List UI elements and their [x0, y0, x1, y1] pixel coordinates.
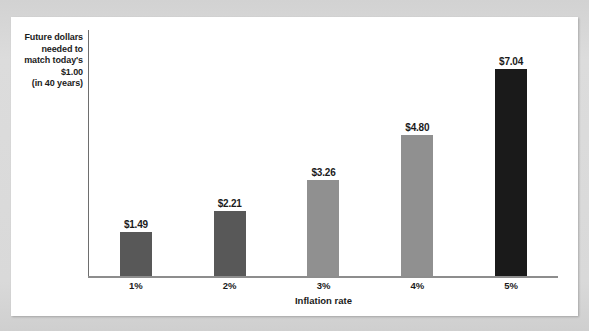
y-axis-label-line-4: $1.00: [19, 67, 83, 79]
bar-1[interactable]: [120, 232, 152, 276]
x-tick-label-2: 2%: [183, 280, 277, 291]
x-axis-tick-labels: 1% 2% 3% 4% 5%: [89, 280, 558, 294]
bar-value-label-1: $1.49: [124, 219, 148, 230]
bar-4[interactable]: [401, 135, 433, 276]
bar-value-label-3: $3.26: [311, 167, 335, 178]
x-tick-label-1: 1%: [89, 280, 183, 291]
y-axis-label-line-3: match today's: [19, 55, 83, 67]
x-tick-label-5: 5%: [464, 280, 558, 291]
bar-chart: Future dollars needed to match today's $…: [11, 17, 578, 316]
bar-value-label-2: $2.21: [218, 198, 242, 209]
y-axis-label: Future dollars needed to match today's $…: [19, 32, 83, 90]
y-axis-label-line-2: needed to: [19, 44, 83, 56]
bar-slot-1: $1.49: [89, 30, 183, 276]
x-tick-label-3: 3%: [277, 280, 371, 291]
y-axis-label-line-1: Future dollars: [19, 32, 83, 44]
bar-slot-2: $2.21: [183, 30, 277, 276]
x-axis-line: [88, 276, 558, 278]
y-axis-label-line-5: (in 40 years): [19, 78, 83, 90]
plot-region: $1.49 $2.21 $3.26 $4.80 $7.04: [89, 30, 558, 276]
bar-slot-5: $7.04: [464, 30, 558, 276]
bar-2[interactable]: [214, 211, 246, 276]
bar-value-label-4: $4.80: [405, 122, 429, 133]
figure-card: Future dollars needed to match today's $…: [11, 17, 578, 316]
bar-slot-3: $3.26: [277, 30, 371, 276]
bar-3[interactable]: [307, 180, 339, 276]
bar-slot-4: $4.80: [370, 30, 464, 276]
bar-5[interactable]: [495, 69, 527, 276]
bar-value-label-5: $7.04: [499, 56, 523, 67]
x-tick-label-4: 4%: [370, 280, 464, 291]
x-axis-label: Inflation rate: [89, 295, 558, 306]
